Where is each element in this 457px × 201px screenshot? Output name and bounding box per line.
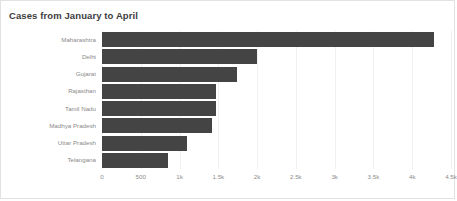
bar[interactable]	[102, 32, 434, 47]
x-axis-tick-label: 500	[136, 174, 146, 180]
x-axis-tick-label: 3.5k	[368, 174, 380, 180]
y-axis-tick-label: Tamil Nadu	[65, 106, 96, 112]
y-axis-tick-label: Uttar Pradesh	[58, 140, 96, 146]
x-axis-tick-label: 2k	[254, 174, 261, 180]
bar-row[interactable]	[102, 66, 451, 83]
bar-row[interactable]	[102, 117, 451, 134]
bar-row[interactable]	[102, 48, 451, 65]
x-axis-tick-label: 2.5k	[290, 174, 302, 180]
x-axis-tick-labels: 05001k1.5k2k2.5k3k3.5k4k4.5k	[102, 171, 451, 191]
bar-chart-card: Cases from January to April MaharashtraD…	[0, 0, 455, 199]
plot-wrapper: MaharashtraDelhiGujaratRajasthanTamil Na…	[1, 31, 456, 199]
bar-row[interactable]	[102, 31, 451, 48]
bar-row[interactable]	[102, 135, 451, 152]
x-axis-tick-label: 4.5k	[445, 174, 457, 180]
y-axis-category-labels: MaharashtraDelhiGujaratRajasthanTamil Na…	[1, 31, 100, 169]
bar[interactable]	[102, 101, 216, 116]
x-axis-tick-label: 1k	[176, 174, 183, 180]
bar[interactable]	[102, 67, 237, 82]
bar[interactable]	[102, 153, 168, 168]
bar-row[interactable]	[102, 152, 451, 169]
y-axis-tick-label: Telangana	[67, 157, 96, 163]
x-gridline	[451, 31, 452, 169]
y-axis-tick-label: Delhi	[82, 54, 96, 60]
x-axis-tick-label: 1.5k	[212, 174, 224, 180]
y-axis-tick-label: Gujarat	[76, 71, 96, 77]
bar[interactable]	[102, 49, 257, 64]
bar[interactable]	[102, 136, 187, 151]
y-axis-tick-label: Rajasthan	[68, 88, 96, 94]
plot-area	[102, 31, 451, 169]
bar[interactable]	[102, 84, 216, 99]
y-axis-tick-label: Madhya Pradesh	[49, 123, 96, 129]
x-axis-tick-label: 3k	[331, 174, 338, 180]
x-axis-tick-label: 4k	[409, 174, 416, 180]
bar-row[interactable]	[102, 100, 451, 117]
y-axis-tick-label: Maharashtra	[61, 37, 96, 43]
x-axis-tick-label: 0	[100, 174, 103, 180]
chart-title: Cases from January to April	[9, 10, 138, 21]
bar-row[interactable]	[102, 83, 451, 100]
bar[interactable]	[102, 118, 212, 133]
